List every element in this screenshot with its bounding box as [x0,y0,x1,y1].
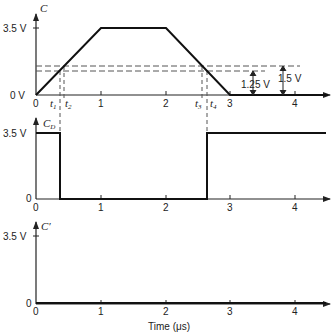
signal-label-cprime: C′ [41,220,51,232]
x-axis-title: Time (μs) [148,321,190,332]
x-tick-4: 4 [292,98,298,109]
x-tick-1: 1 [98,98,104,109]
x-tick-1-cd: 1 [98,202,104,213]
t3-label: t3 [195,97,202,111]
waveform-cd [36,133,326,199]
y-tick-0-cd: 0 [26,193,32,204]
x-tick-2: 2 [163,98,169,109]
t1-label: t1 [50,97,57,111]
y-tick-3-5v-cprime: 3.5 V [3,231,27,242]
x-tick-3: 3 [227,98,233,109]
x-tick-3-cd: 3 [227,202,233,213]
y-tick-3-5v: 3.5 V [3,23,27,34]
plot-c: C 3.5 V 0 V 0 1 2 3 4 t1 t2 t3 t4 1.25 V… [3,2,330,133]
plot-cd: CD 3.5 V 0 0 1 2 3 4 [3,117,330,213]
signal-label-cd: CD [43,117,55,131]
x-tick-0-cd: 0 [33,202,39,213]
x-tick-4-cprime: 4 [292,306,298,317]
y-tick-0-cprime: 0 [26,298,32,309]
plot-cprime: C′ 3.5 V 0 0 1 2 3 4 Time (μs) [3,220,330,332]
y-tick-0v: 0 V [10,90,25,101]
threshold-1-25v-label: 1.25 V [241,79,270,90]
x-tick-1-cprime: 1 [98,306,104,317]
waveform-c [36,28,328,95]
x-tick-2-cd: 2 [163,202,169,213]
threshold-1-5v-label: 1.5 V [278,73,302,84]
x-tick-0: 0 [33,98,39,109]
t4-label: t4 [210,97,217,111]
x-tick-4-cd: 4 [292,202,298,213]
signal-label-c: C [40,2,48,14]
x-tick-0-cprime: 0 [33,306,39,317]
timing-diagram: C 3.5 V 0 V 0 1 2 3 4 t1 t2 t3 t4 1.25 V… [0,0,336,335]
t2-label: t2 [65,97,72,111]
x-tick-2-cprime: 2 [163,306,169,317]
y-tick-3-5v-cd: 3.5 V [3,128,27,139]
x-tick-3-cprime: 3 [227,306,233,317]
